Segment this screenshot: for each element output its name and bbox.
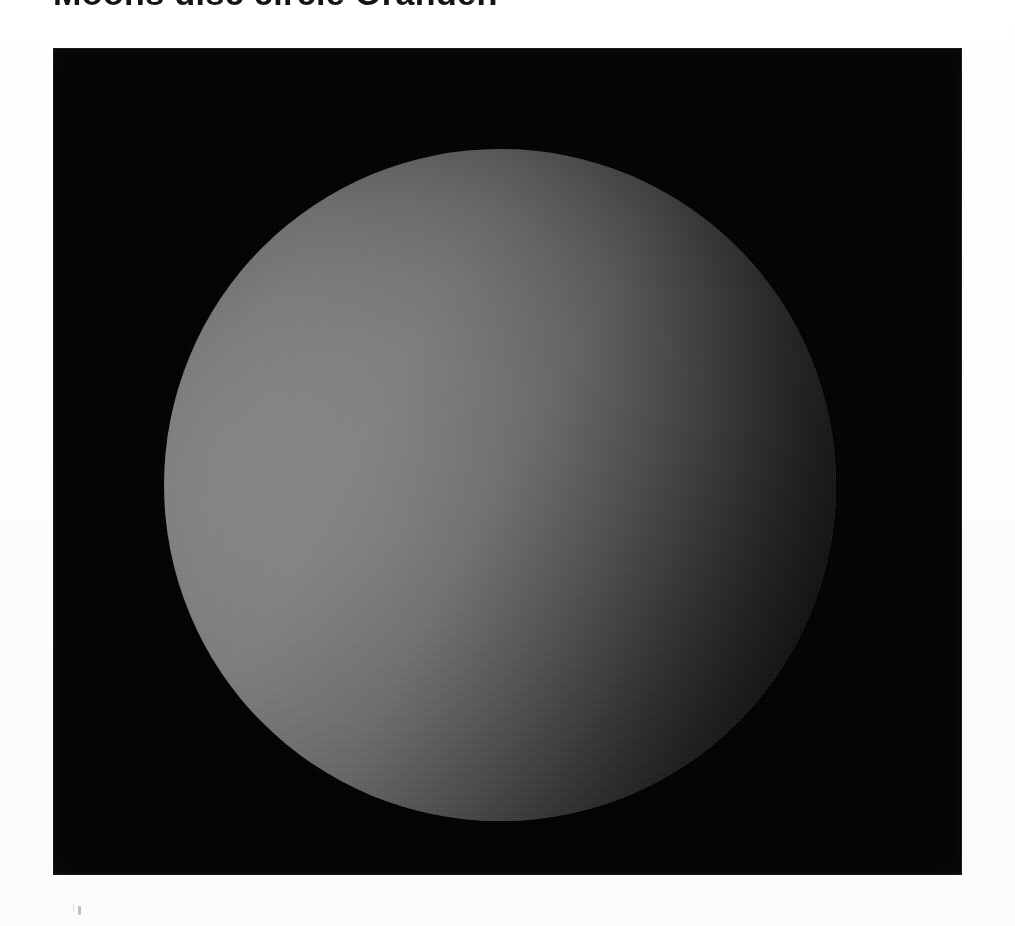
disc-limb-shading: [164, 149, 836, 821]
scan-artifact-tick: [73, 904, 74, 912]
disc-container: [53, 48, 962, 875]
scan-dust-speck: [78, 906, 81, 915]
plate-title: Moons disc circle Orander.: [53, 0, 953, 12]
scanned-page: Moons disc circle Orander.: [0, 0, 1015, 926]
photographic-plate: [53, 48, 962, 875]
